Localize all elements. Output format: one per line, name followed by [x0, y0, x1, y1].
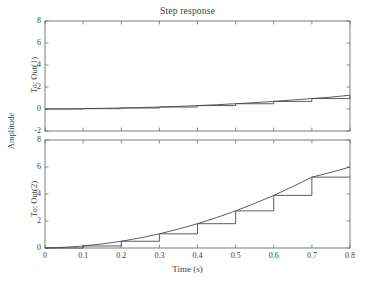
- y-tick-label: 0: [23, 104, 41, 113]
- x-tick-label: 0.6: [259, 251, 289, 260]
- panel1-tick-marks: [45, 21, 350, 131]
- x-tick-label: 0.4: [183, 251, 213, 260]
- y-tick-label: 2: [23, 82, 41, 91]
- step-response-figure: Step response Amplitude To: Out(1) To: O…: [0, 0, 375, 284]
- x-tick-label: 0.5: [221, 251, 251, 260]
- x-tick-label: 0.1: [68, 251, 98, 260]
- plot-canvas: [0, 0, 375, 284]
- y-tick-label: 8: [23, 135, 41, 144]
- panel2-data-lines: [45, 167, 350, 248]
- y-tick-label: 2: [23, 216, 41, 225]
- x-tick-label: 0.3: [144, 251, 174, 260]
- x-tick-label: 0: [30, 251, 60, 260]
- y-tick-label: 8: [23, 16, 41, 25]
- x-tick-label: 0.8: [335, 251, 365, 260]
- panel1-data-lines: [45, 95, 350, 109]
- y-tick-label: 6: [23, 162, 41, 171]
- x-tick-label: 0.7: [297, 251, 327, 260]
- y-tick-label: 0: [23, 243, 41, 252]
- y-tick-label: 4: [23, 189, 41, 198]
- y-tick-label: -2: [23, 126, 41, 135]
- y-tick-label: 4: [23, 60, 41, 69]
- panel1-frame: [45, 21, 350, 131]
- x-tick-label: 0.2: [106, 251, 136, 260]
- y-tick-label: 6: [23, 38, 41, 47]
